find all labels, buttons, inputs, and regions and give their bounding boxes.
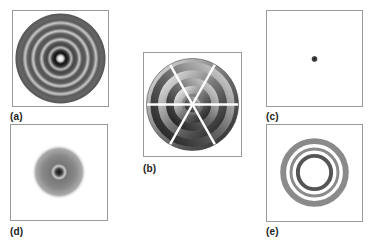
- panel-d: [10, 124, 108, 221]
- panel-e: [266, 124, 363, 222]
- central-dot-image: [267, 11, 362, 106]
- concentric-rings-image: [13, 11, 108, 106]
- panel-c: [266, 10, 363, 107]
- panel-e-label: (e): [266, 226, 279, 237]
- diffuse-blob-image: [11, 125, 107, 220]
- panel-b: [143, 52, 242, 157]
- panel-a: [12, 10, 109, 107]
- three-rings-image: [267, 125, 362, 221]
- segmented-rings-image: [144, 53, 241, 156]
- panel-d-label: (d): [10, 226, 23, 237]
- panel-b-label: (b): [143, 163, 156, 174]
- panel-a-label: (a): [10, 111, 23, 122]
- panel-c-label: (c): [266, 111, 279, 122]
